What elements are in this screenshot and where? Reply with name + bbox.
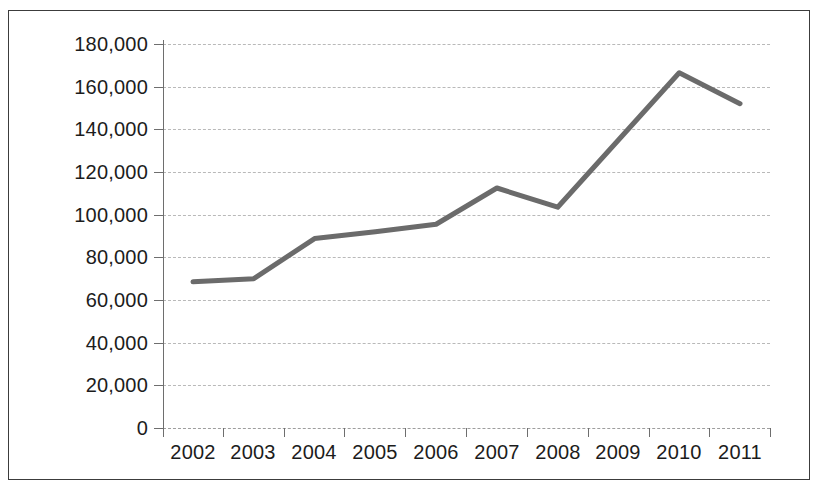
gridline-40000 bbox=[163, 343, 770, 344]
gridline-160000 bbox=[163, 87, 770, 88]
gridline-80000 bbox=[163, 257, 770, 258]
gridline-100000 bbox=[163, 215, 770, 216]
gridline-120000 bbox=[163, 172, 770, 173]
gridline-140000 bbox=[163, 129, 770, 130]
x-axis-tick-label: 2008 bbox=[535, 441, 580, 464]
x-axis-tick-label: 2007 bbox=[474, 441, 519, 464]
x-tick-2009 bbox=[649, 428, 650, 437]
y-tick-80000 bbox=[154, 257, 163, 258]
y-axis-tick-label: 20,000 bbox=[86, 374, 148, 397]
y-tick-160000 bbox=[154, 87, 163, 88]
gridline-60000 bbox=[163, 300, 770, 301]
y-tick-20000 bbox=[154, 385, 163, 386]
x-tick-2004 bbox=[344, 428, 345, 437]
x-tick-2011 bbox=[770, 428, 771, 437]
y-axis-line bbox=[163, 40, 164, 432]
y-axis-tick-label: 160,000 bbox=[74, 76, 148, 99]
x-tick-2005 bbox=[405, 428, 406, 437]
y-tick-120000 bbox=[154, 172, 163, 173]
y-tick-60000 bbox=[154, 300, 163, 301]
y-axis-tick-label: 120,000 bbox=[74, 161, 148, 184]
y-axis-tick-label: 40,000 bbox=[86, 332, 148, 355]
x-tick-start bbox=[163, 428, 164, 437]
y-axis-labels: 180,000 160,000 140,000 120,000 100,000 … bbox=[0, 0, 148, 491]
x-tick-2007 bbox=[527, 428, 528, 437]
x-axis-tick-label: 2010 bbox=[656, 441, 701, 464]
y-axis-tick-label: 0 bbox=[137, 417, 148, 440]
y-axis-tick-label: 100,000 bbox=[74, 204, 148, 227]
y-tick-140000 bbox=[154, 129, 163, 130]
x-axis-tick-label: 2005 bbox=[352, 441, 397, 464]
y-tick-180000 bbox=[154, 44, 163, 45]
y-axis-tick-label: 60,000 bbox=[86, 289, 148, 312]
y-tick-100000 bbox=[154, 215, 163, 216]
x-tick-2008 bbox=[588, 428, 589, 437]
y-axis-tick-label: 140,000 bbox=[74, 118, 148, 141]
x-tick-2003 bbox=[284, 428, 285, 437]
chart-figure: 180,000 160,000 140,000 120,000 100,000 … bbox=[0, 0, 820, 491]
x-tick-2002 bbox=[223, 428, 224, 437]
x-tick-2006 bbox=[466, 428, 467, 437]
gridline-20000 bbox=[163, 385, 770, 386]
x-tick-2010 bbox=[709, 428, 710, 437]
plot-area bbox=[163, 44, 770, 428]
x-axis-tick-label: 2002 bbox=[170, 441, 215, 464]
x-axis-tick-label: 2003 bbox=[230, 441, 275, 464]
gridline-180000 bbox=[163, 44, 770, 45]
y-axis-tick-label: 180,000 bbox=[74, 33, 148, 56]
y-axis-tick-label: 80,000 bbox=[86, 246, 148, 269]
y-tick-0 bbox=[154, 428, 163, 429]
x-axis-tick-label: 2009 bbox=[595, 441, 640, 464]
x-axis-tick-label: 2006 bbox=[413, 441, 458, 464]
y-tick-40000 bbox=[154, 343, 163, 344]
x-axis-tick-label: 2011 bbox=[718, 441, 762, 464]
x-axis-tick-label: 2004 bbox=[291, 441, 336, 464]
